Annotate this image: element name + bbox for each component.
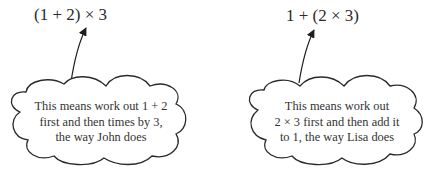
callout-lisa: This means work out 2 × 3 first and then… (257, 99, 417, 146)
callout-line: 2 × 3 first and then add it (257, 115, 417, 131)
arrow-left-icon (71, 28, 86, 82)
callout-line: This means work out 1 + 2 (22, 99, 180, 115)
diagram-canvas: (1 + 2) × 3 1 + (2 × 3) This means work … (0, 0, 427, 169)
callout-line: to 1, the way Lisa does (257, 130, 417, 146)
callout-line: This means work out (257, 99, 417, 115)
expression-lisa: 1 + (2 × 3) (286, 6, 359, 26)
callout-line: first and then times by 3, (22, 115, 180, 131)
callout-line: the way John does (22, 130, 180, 146)
expression-john: (1 + 2) × 3 (34, 5, 107, 25)
callout-john: This means work out 1 + 2 first and then… (22, 99, 180, 146)
arrow-right-icon (299, 30, 314, 83)
